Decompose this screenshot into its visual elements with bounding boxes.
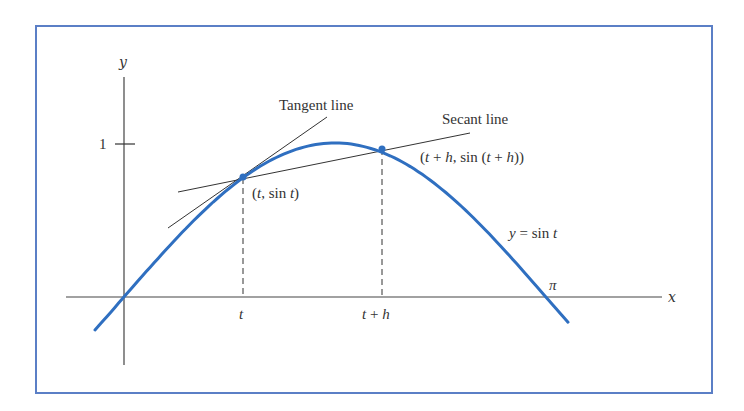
sine-tangent-secant-diagram: x y 1 Tangent line Secant line (t, sin t… bbox=[0, 0, 744, 411]
y-tick-one-label: 1 bbox=[99, 136, 107, 152]
y-axis-label: y bbox=[118, 54, 128, 70]
tick-t-plus-h-label: t + h bbox=[362, 306, 390, 322]
point-t-plus-h-label: (t + h, sin (t + h)) bbox=[420, 149, 524, 166]
x-axis-label: x bbox=[668, 289, 676, 305]
secant-line-label: Secant line bbox=[442, 111, 509, 127]
tangent-line bbox=[168, 117, 327, 228]
tick-t-label: t bbox=[239, 306, 244, 322]
point-t bbox=[240, 174, 247, 181]
point-t-plus-h bbox=[379, 146, 386, 153]
pi-label: π bbox=[549, 277, 557, 293]
curve-equation-label: y = sin t bbox=[507, 225, 558, 241]
sine-curve bbox=[95, 143, 568, 330]
figure-frame bbox=[36, 26, 712, 393]
tangent-line-label: Tangent line bbox=[279, 97, 354, 113]
point-t-label: (t, sin t) bbox=[252, 185, 299, 202]
